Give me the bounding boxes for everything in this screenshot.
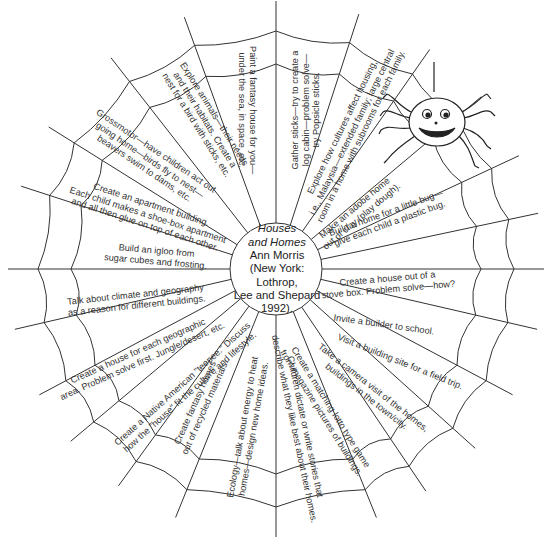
book-reference-hub: Houses and Homes Ann Morris (New York: L… [230,222,324,316]
activity-gather-sticks: Gather sticks—try to create a log cabin—… [290,51,322,170]
spider-icon [379,62,495,168]
book-publisher-line3: 1992). [261,302,293,315]
book-title-line1: Houses [258,222,296,235]
book-publisher-line1: (New York: Lothrop, [230,262,324,289]
book-publisher-line2: Lee and Shepard [234,289,321,302]
book-author: Ann Morris [250,249,305,262]
book-title-line2: and Homes [248,236,306,249]
